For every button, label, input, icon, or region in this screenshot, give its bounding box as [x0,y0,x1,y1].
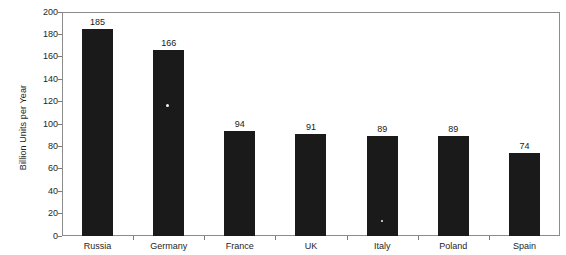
scan-speck [381,220,383,222]
bar [295,134,326,236]
x-category-label: Germany [133,239,204,255]
bar [153,50,184,236]
bar [438,136,469,236]
bar-value-label: 89 [448,125,458,134]
bar-value-label: 166 [161,39,176,48]
bar [224,131,255,236]
bar-slot: 89 [347,12,418,236]
scan-speck [166,104,169,107]
bar-value-label: 94 [235,120,245,129]
y-axis-ticks: 200180160140120100806040200 [0,12,62,236]
x-category-label: France [204,239,275,255]
bar-slot: 185 [62,12,133,236]
bar-value-label: 74 [519,142,529,151]
x-category-label: Poland [418,239,489,255]
bar-value-label: 185 [90,18,105,27]
bar [367,136,398,236]
bars-area: 1851669491898974 [62,12,560,236]
x-category-label: Spain [489,239,560,255]
bar-chart: Billion Units per Year 20018016014012010… [0,0,566,255]
bar-slot: 74 [489,12,560,236]
x-axis-labels: RussiaGermanyFranceUKItalyPolandSpain [62,239,560,255]
bar-slot: 94 [204,12,275,236]
bar-value-label: 89 [377,125,387,134]
bar [82,29,113,236]
x-category-label: Russia [62,239,133,255]
x-category-label: Italy [347,239,418,255]
bar-slot: 91 [275,12,346,236]
x-category-label: UK [275,239,346,255]
bar-slot: 166 [133,12,204,236]
bar [509,153,540,236]
bar-slot: 89 [418,12,489,236]
bar-value-label: 91 [306,123,316,132]
